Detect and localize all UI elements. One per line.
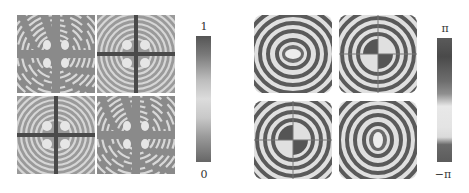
intensity-panel-bottom-left [17, 96, 95, 174]
phase-panel-bottom-right [339, 101, 417, 179]
intensity-panel-top-left [17, 15, 95, 93]
phase-panel-top-left [254, 15, 332, 93]
intensity-panel-bottom-right [97, 96, 175, 174]
phase-colorbar-max-label: π [435, 22, 455, 35]
phase-colorbar [437, 38, 452, 162]
intensity-colorbar-min-label: 0 [194, 168, 214, 181]
intensity-panel-top-right [97, 15, 175, 93]
phase-panel-bottom-left [254, 101, 332, 179]
phase-colorbar-min-label: −π [433, 168, 453, 181]
intensity-colorbar [196, 36, 211, 162]
intensity-colorbar-max-label: 1 [194, 20, 214, 33]
phase-panel-top-right [339, 15, 417, 93]
